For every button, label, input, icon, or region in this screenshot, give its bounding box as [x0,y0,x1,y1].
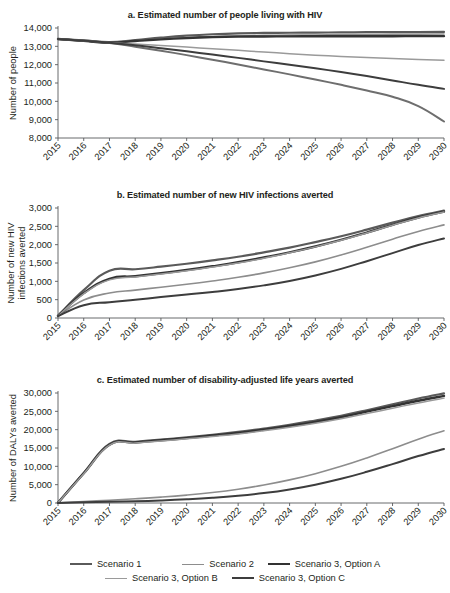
x-tick-label: 2020 [170,505,192,527]
x-tick-label: 2022 [221,140,243,162]
legend-label: Scenario 2 [209,557,253,571]
x-tick-label: 2028 [376,505,398,527]
x-tick-label: 2026 [324,140,346,162]
x-tick-label: 2019 [144,320,166,342]
panel-c-svg: 05,00010,00015,00020,00025,00030,0002015… [0,385,450,553]
y-tick-label: 10,000 [24,462,52,472]
panel-b: b. Estimated number of new HIV infection… [0,190,450,375]
x-tick-label: 2016 [67,320,89,342]
legend-item-scenario-3-option-c[interactable]: Scenario 3, Option C [232,571,345,585]
x-tick-label: 2023 [247,140,269,162]
legend-item-scenario-3-option-b[interactable]: Scenario 3, Option B [105,571,218,585]
x-tick-label: 2030 [427,140,449,162]
y-tick-label: 0 [47,498,52,508]
y-tick-label: 2,000 [29,240,52,250]
series-line [58,212,444,316]
y-tick-label: 30,000 [24,388,52,398]
y-tick-label: 1,000 [29,277,52,287]
y-axis-title: Number of people [8,46,18,120]
x-tick-label: 2027 [350,320,372,342]
y-tick-label: 14,000 [24,23,52,33]
legend-swatch-icon [105,578,127,579]
x-tick-label: 2016 [67,140,89,162]
panel-c: c. Estimated number of disability-adjust… [0,375,450,555]
legend-label: Scenario 3, Option A [295,557,380,571]
y-tick-label: 0 [47,313,52,323]
x-tick-label: 2025 [299,320,321,342]
x-tick-label: 2024 [273,320,295,342]
x-tick-label: 2021 [196,320,218,342]
x-tick-label: 2030 [427,320,449,342]
x-tick-label: 2029 [401,505,423,527]
x-tick-label: 2017 [93,320,115,342]
x-tick-label: 2023 [247,320,269,342]
panel-a-svg: 8,0009,00010,00011,00012,00013,00014,000… [0,20,450,188]
figure-container: a. Estimated number of people living wit… [0,0,450,593]
x-tick-label: 2026 [324,320,346,342]
panel-b-svg: 05001,0001,5002,0002,5003,00020152016201… [0,200,450,368]
y-tick-label: 500 [36,295,52,305]
x-tick-label: 2024 [273,505,295,527]
x-tick-label: 2016 [67,505,89,527]
x-tick-label: 2020 [170,140,192,162]
legend-item-scenario-1[interactable]: Scenario 1 [70,557,141,571]
legend-item-scenario-2[interactable]: Scenario 2 [182,557,253,571]
legend-label: Scenario 3, Option B [132,571,218,585]
series-line [58,39,444,89]
legend-row-2: Scenario 3, Option B Scenario 3, Option … [0,571,450,585]
x-tick-label: 2018 [118,140,140,162]
y-tick-label: 2,500 [29,222,52,232]
x-tick-label: 2018 [118,320,140,342]
x-tick-label: 2022 [221,505,243,527]
x-tick-label: 2015 [41,140,63,162]
y-tick-label: 1,500 [29,258,52,268]
x-tick-label: 2030 [427,505,449,527]
x-tick-label: 2026 [324,505,346,527]
legend-swatch-icon [182,564,204,565]
y-tick-label: 8,000 [29,133,52,143]
panel-c-plot: 05,00010,00015,00020,00025,00030,0002015… [0,385,450,553]
y-tick-label: 12,000 [24,60,52,70]
y-tick-label: 13,000 [24,42,52,52]
y-tick-label: 9,000 [29,115,52,125]
y-axis-title: infections averted [17,227,27,300]
x-tick-label: 2021 [196,505,218,527]
panel-a-plot: 8,0009,00010,00011,00012,00013,00014,000… [0,20,450,188]
x-tick-label: 2028 [376,140,398,162]
x-tick-label: 2023 [247,505,269,527]
y-tick-label: 10,000 [24,97,52,107]
x-tick-label: 2017 [93,140,115,162]
y-tick-label: 25,000 [24,407,52,417]
x-tick-label: 2028 [376,320,398,342]
legend-label: Scenario 3, Option C [259,571,345,585]
y-axis-title: Number of DALYs averted [8,394,18,502]
x-tick-label: 2025 [299,505,321,527]
y-tick-label: 5,000 [29,480,52,490]
panel-a-title: a. Estimated number of people living wit… [0,0,450,20]
x-tick-label: 2018 [118,505,140,527]
x-tick-label: 2015 [41,320,63,342]
legend-swatch-icon [268,563,290,565]
series-line [58,449,444,503]
x-tick-label: 2015 [41,505,63,527]
x-tick-label: 2025 [299,140,321,162]
x-tick-label: 2021 [196,140,218,162]
x-tick-label: 2029 [401,140,423,162]
y-tick-label: 11,000 [24,78,52,88]
figure-legend: Scenario 1 Scenario 2 Scenario 3, Option… [0,557,450,585]
legend-swatch-icon [232,577,254,579]
y-tick-label: 15,000 [24,443,52,453]
x-tick-label: 2027 [350,505,372,527]
panel-c-title: c. Estimated number of disability-adjust… [0,375,450,385]
panel-b-title: b. Estimated number of new HIV infection… [0,190,450,200]
x-tick-label: 2019 [144,140,166,162]
legend-item-scenario-3-option-a[interactable]: Scenario 3, Option A [268,557,380,571]
y-tick-label: 3,000 [29,203,52,213]
panel-a: a. Estimated number of people living wit… [0,0,450,190]
x-tick-label: 2022 [221,320,243,342]
legend-row-1: Scenario 1 Scenario 2 Scenario 3, Option… [0,557,450,571]
y-tick-label: 20,000 [24,425,52,435]
x-tick-label: 2019 [144,505,166,527]
y-axis-title: Number of new HIV [6,222,16,304]
legend-label: Scenario 1 [97,557,141,571]
